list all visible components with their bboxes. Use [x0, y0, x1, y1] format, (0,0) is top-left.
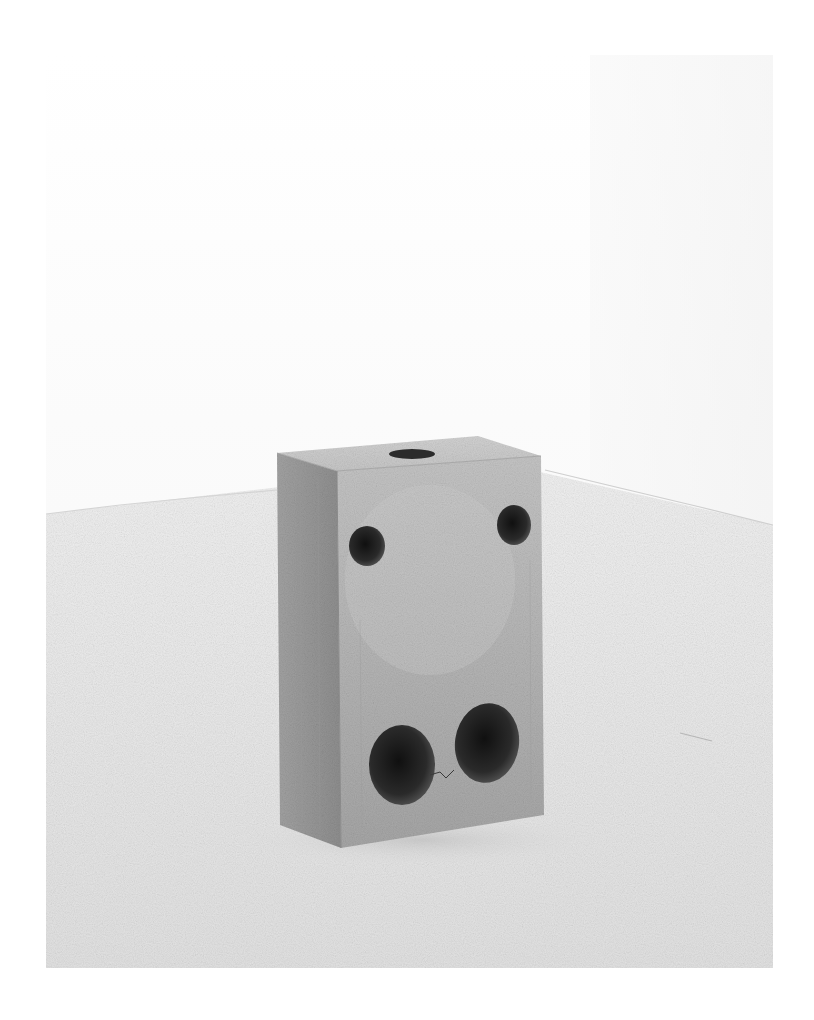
upper-left-hole	[349, 526, 385, 566]
upper-right-hole	[497, 505, 531, 545]
photograph	[0, 0, 814, 1020]
gallery-right-wall	[590, 55, 773, 525]
concrete-sculpture	[277, 436, 544, 848]
top-hole	[389, 449, 435, 459]
sculpture-left-face	[277, 453, 341, 848]
lower-left-hole	[369, 725, 435, 805]
concrete-texture-patch	[345, 485, 515, 675]
